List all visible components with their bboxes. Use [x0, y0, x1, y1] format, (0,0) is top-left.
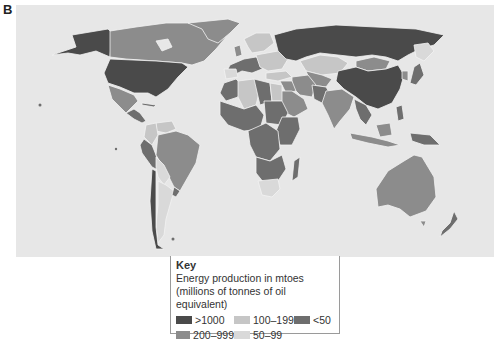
region-central-africa [248, 123, 280, 161]
region-caribbean [142, 103, 156, 107]
region-new-guinea [410, 133, 440, 145]
legend-item-200-999: 200–999 [176, 329, 234, 341]
region-argentina [156, 181, 174, 243]
region-borneo [376, 123, 392, 137]
region-turkey [266, 71, 292, 81]
region-uk [234, 45, 242, 57]
region-australia [376, 155, 436, 217]
legend-swatch-200-999 [176, 331, 190, 339]
region-hawaii [39, 104, 42, 107]
region-egypt [270, 83, 282, 101]
region-madagascar [292, 157, 300, 181]
region-venezuela [156, 121, 176, 133]
region-tasmania [420, 221, 426, 227]
legend-subtitle-line2: (millions of tonnes of oil equivalent) [176, 285, 334, 311]
region-south-africa [258, 179, 280, 197]
region-spain [224, 69, 238, 79]
legend-swatch-50-99 [234, 331, 250, 339]
legend-label: <50 [313, 314, 331, 326]
region-korea [402, 71, 408, 81]
legend-swatch-under-50 [294, 316, 310, 324]
legend-item-100-199: 100–199 [234, 314, 294, 326]
map-legend: Key Energy production in mtoes (millions… [170, 256, 340, 334]
legend-item-under-50: <50 [294, 314, 338, 326]
region-scandinavia [244, 33, 274, 53]
legend-item-over-1000: >1000 [176, 314, 234, 326]
legend-label: 100–199 [253, 314, 294, 326]
region-alaska [52, 29, 112, 57]
panel-label: B [3, 2, 12, 17]
legend-swatch-over-1000 [176, 316, 192, 324]
world-map [16, 5, 494, 257]
region-indonesia [350, 133, 400, 147]
region-central-america [126, 109, 146, 123]
legend-label: 50–99 [253, 329, 282, 341]
world-map-svg [16, 5, 494, 257]
legend-swatch-100-199 [234, 316, 250, 324]
legend-label: 200–999 [193, 329, 234, 341]
legend-label: >1000 [195, 314, 225, 326]
legend-subtitle-line1: Energy production in mtoes [176, 272, 334, 285]
legend-title: Key [176, 259, 334, 272]
region-falklands [172, 238, 175, 241]
region-new-zealand [440, 211, 458, 237]
region-galapagos [115, 148, 117, 150]
region-philippines [396, 105, 404, 121]
region-japan [410, 63, 424, 85]
legend-item-50-99: 50–99 [234, 329, 294, 341]
region-india [322, 89, 354, 129]
